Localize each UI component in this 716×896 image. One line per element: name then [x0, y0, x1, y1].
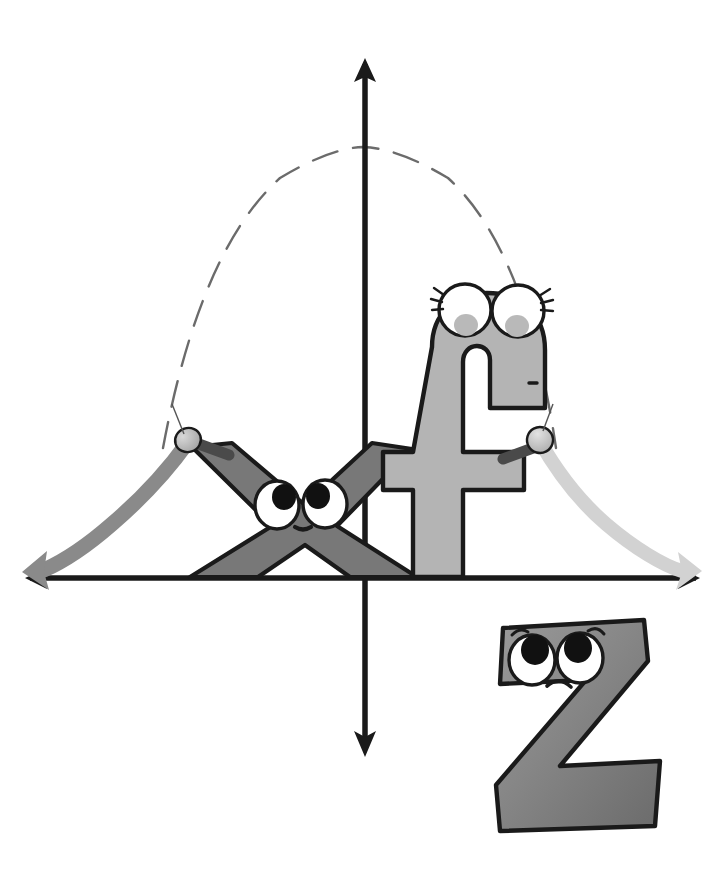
illustration-canvas: Cartoon letters on a coordinate plane [0, 0, 716, 896]
letter-x-right-eye [303, 480, 347, 528]
letter-z-right-eye [557, 633, 603, 683]
letter-z-left-eye [509, 635, 555, 685]
letter-x-left-eye [255, 481, 299, 529]
letter-x-mouth [295, 527, 311, 530]
math-cartoon-scene [0, 0, 716, 896]
